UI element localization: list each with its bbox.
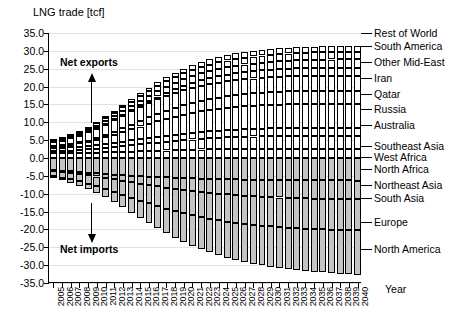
bar-segment[interactable] [119,128,126,132]
bar-segment[interactable] [232,53,239,58]
bar-segment[interactable] [102,121,109,124]
bar-segment[interactable] [146,158,153,177]
bar-segment[interactable] [250,71,257,78]
bar-segment[interactable] [276,54,283,61]
bar-segment[interactable] [215,83,222,98]
bar-segment[interactable] [276,158,283,180]
bar-segment[interactable] [328,46,335,52]
bar-segment[interactable] [215,131,222,138]
bar-segment[interactable] [189,215,196,245]
bar-segment[interactable] [293,180,300,198]
bar-segment[interactable] [276,180,283,197]
bar-segment[interactable] [285,149,292,158]
bar-segment[interactable] [206,110,213,131]
bar-segment[interactable] [224,67,231,75]
bar-segment[interactable] [259,136,266,148]
bar-segment[interactable] [232,59,239,66]
bar-segment[interactable] [259,78,266,93]
bar-segment[interactable] [224,108,231,130]
bar-segment[interactable] [102,124,109,126]
bar-segment[interactable] [232,130,239,137]
bar-segment[interactable] [102,178,109,189]
bar-stack[interactable] [198,33,205,283]
bar-segment[interactable] [267,226,274,266]
bar-segment[interactable] [67,138,74,144]
bar-segment[interactable] [241,129,248,137]
bar-segment[interactable] [119,142,126,147]
bar-stack[interactable] [302,33,309,283]
bar-segment[interactable] [267,62,274,70]
bar-segment[interactable] [59,148,66,151]
bar-segment[interactable] [137,158,144,176]
bar-segment[interactable] [111,119,118,121]
bar-segment[interactable] [345,76,352,91]
bar-segment[interactable] [198,73,205,80]
bar-segment[interactable] [59,158,66,171]
bar-segment[interactable] [180,90,187,105]
bar-stack[interactable] [206,33,213,283]
bar-segment[interactable] [146,96,153,101]
bar-segment[interactable] [59,178,66,181]
bar-segment[interactable] [128,158,135,176]
bar-segment[interactable] [215,57,222,62]
bar-segment[interactable] [102,135,109,137]
bar-segment[interactable] [111,192,118,203]
bar-segment[interactable] [59,141,66,146]
bar-segment[interactable] [137,127,144,140]
bar-segment[interactable] [198,158,205,179]
bar-segment[interactable] [328,180,335,199]
bar-segment[interactable] [189,140,196,150]
bar-segment[interactable] [311,158,318,180]
bar-segment[interactable] [328,104,335,128]
bar-segment[interactable] [163,96,170,111]
bar-segment[interactable] [241,224,248,262]
bar-segment[interactable] [285,76,292,91]
bar-segment[interactable] [276,136,283,149]
bar-segment[interactable] [198,192,205,217]
bar-segment[interactable] [85,130,92,132]
bar-segment[interactable] [241,79,248,94]
bar-segment[interactable] [198,132,205,139]
bar-segment[interactable] [85,146,92,150]
bar-segment[interactable] [154,186,161,206]
bar-segment[interactable] [180,140,187,150]
bar-segment[interactable] [163,177,170,187]
bar-segment[interactable] [93,138,100,140]
bar-segment[interactable] [50,151,57,153]
bar-segment[interactable] [67,158,74,171]
bar-segment[interactable] [319,180,326,198]
bar-segment[interactable] [102,137,109,143]
bar-segment[interactable] [319,149,326,158]
bar-segment[interactable] [345,199,352,230]
bar-segment[interactable] [311,52,318,59]
bar-segment[interactable] [128,110,135,112]
bar-segment[interactable] [67,179,74,182]
bar-segment[interactable] [293,158,300,180]
bar-segment[interactable] [189,88,196,103]
bar-segment[interactable] [241,72,248,79]
bar-segment[interactable] [128,176,135,183]
bar-segment[interactable] [128,111,135,125]
bar-segment[interactable] [267,180,274,197]
bar-segment[interactable] [146,101,153,103]
bar-segment[interactable] [241,180,248,196]
bar-segment[interactable] [111,135,118,143]
bar-segment[interactable] [293,136,300,149]
bar-segment[interactable] [206,158,213,179]
bar-segment[interactable] [111,132,118,135]
bar-stack[interactable] [319,33,326,283]
bar-segment[interactable] [137,176,144,184]
bar-segment[interactable] [345,52,352,59]
bar-segment[interactable] [180,190,187,213]
bar-segment[interactable] [224,55,231,60]
bar-segment[interactable] [276,227,283,268]
bar-segment[interactable] [285,158,292,180]
bar-segment[interactable] [215,220,222,255]
bar-segment[interactable] [250,51,257,57]
bar-stack[interactable] [285,33,292,283]
bar-segment[interactable] [154,91,161,97]
bar-segment[interactable] [328,68,335,76]
bar-segment[interactable] [180,150,187,158]
bar-segment[interactable] [85,141,92,143]
bar-segment[interactable] [119,115,126,128]
